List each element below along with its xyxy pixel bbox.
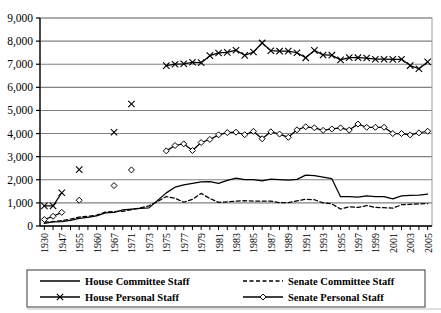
y-tick-label: 0 bbox=[27, 220, 33, 232]
chart-figure: 01,0002,0003,0004,0005,0006,0007,0008,00… bbox=[0, 0, 441, 313]
x-tick-label: 1995 bbox=[336, 233, 347, 253]
y-tick-label: 7,000 bbox=[7, 58, 33, 71]
x-tick-label: 1979 bbox=[196, 233, 207, 253]
x-axis-tick-labels: 1930194719551960196719711973197519771979… bbox=[39, 233, 433, 253]
x-tick-label: 1975 bbox=[161, 233, 172, 253]
legend-label: Senate Personal Staff bbox=[288, 292, 384, 303]
y-tick-label: 6,000 bbox=[7, 81, 33, 94]
x-tick-label: 1985 bbox=[248, 233, 259, 253]
y-tick-label: 9,000 bbox=[7, 12, 33, 25]
x-tick-label: 1971 bbox=[126, 233, 137, 253]
x-tick-label: 1960 bbox=[92, 233, 103, 253]
y-tick-label: 2,000 bbox=[7, 174, 33, 187]
x-tick-label: 1991 bbox=[301, 233, 312, 253]
x-tick-label: 1967 bbox=[109, 233, 120, 253]
x-tick-label: 1977 bbox=[179, 233, 190, 253]
x-tick-label: 1989 bbox=[283, 233, 294, 253]
x-tick-label: 1955 bbox=[74, 233, 85, 253]
y-tick-label: 3,000 bbox=[7, 151, 33, 164]
y-tick-label: 8,000 bbox=[7, 35, 33, 48]
x-tick-label: 1947 bbox=[57, 233, 68, 253]
legend-label: House Personal Staff bbox=[85, 292, 179, 303]
x-tick-label: 1930 bbox=[39, 233, 50, 253]
x-tick-label: 2001 bbox=[388, 233, 399, 253]
x-tick-label: 1981 bbox=[214, 233, 225, 253]
x-tick-label: 1983 bbox=[231, 233, 242, 253]
x-tick-label: 1997 bbox=[353, 233, 364, 253]
y-tick-label: 5,000 bbox=[7, 104, 33, 117]
legend-label: Senate Committee Staff bbox=[288, 276, 395, 287]
x-tick-label: 1973 bbox=[144, 233, 155, 253]
x-tick-label: 1987 bbox=[266, 233, 277, 253]
x-tick-label: 1993 bbox=[318, 233, 329, 253]
chart-legend: House Committee StaffSenate Committee St… bbox=[27, 270, 425, 307]
x-tick-label: 1999 bbox=[370, 233, 381, 253]
staff-growth-line-chart: 01,0002,0003,0004,0005,0006,0007,0008,00… bbox=[0, 0, 441, 313]
x-tick-label: 2005 bbox=[423, 233, 434, 253]
x-tick-label: 2003 bbox=[405, 233, 416, 253]
y-tick-label: 4,000 bbox=[7, 128, 33, 141]
legend-label: House Committee Staff bbox=[85, 276, 190, 287]
y-tick-label: 1,000 bbox=[7, 197, 33, 210]
